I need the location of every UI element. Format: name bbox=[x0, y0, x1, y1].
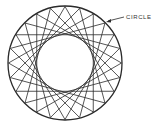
circle-label: CIRCLE bbox=[126, 14, 152, 20]
leader-arrowhead bbox=[106, 19, 111, 23]
chord-line bbox=[80, 23, 105, 118]
chord-line bbox=[25, 8, 50, 103]
chord-line bbox=[25, 78, 120, 103]
chord-lines bbox=[9, 7, 122, 120]
chord-line bbox=[80, 8, 105, 103]
chord-line bbox=[25, 23, 50, 118]
chord-line bbox=[10, 78, 105, 103]
chord-line bbox=[25, 23, 120, 48]
chord-line bbox=[10, 23, 105, 48]
